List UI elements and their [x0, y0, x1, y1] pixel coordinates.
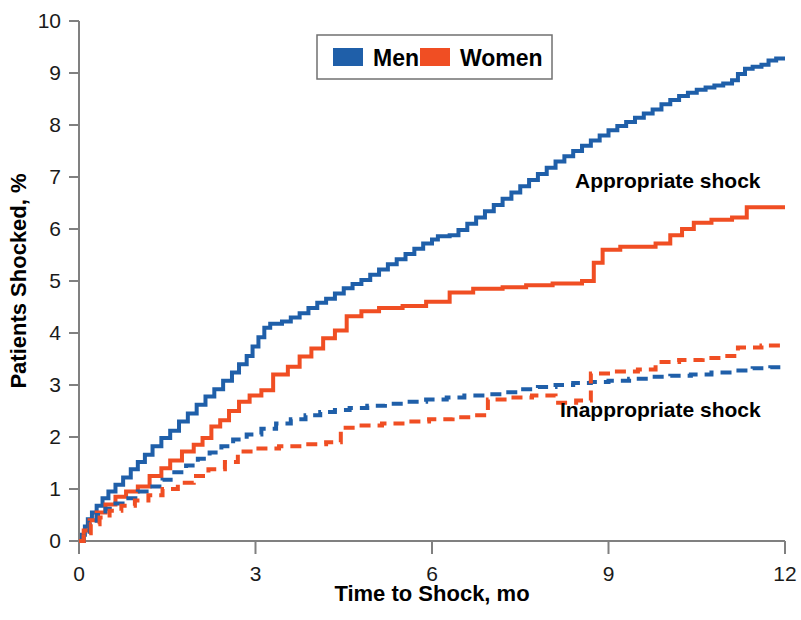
series-group: [79, 58, 785, 541]
y-tick-label: 4: [49, 321, 61, 344]
legend-label-men: Men: [373, 45, 419, 71]
y-tick-label: 0: [49, 529, 61, 552]
x-tick-label: 9: [603, 562, 615, 585]
y-tick-label: 7: [49, 165, 61, 188]
chart-container: 012345678910 036912 Time to Shock, mo Pa…: [0, 0, 801, 620]
y-tick-label: 5: [49, 269, 61, 292]
x-tick-label: 12: [773, 562, 796, 585]
y-tick-label: 3: [49, 373, 61, 396]
kaplan-meier-chart: 012345678910 036912 Time to Shock, mo Pa…: [0, 0, 801, 620]
x-tick-label: 0: [73, 562, 85, 585]
y-axis-ticks: 012345678910: [38, 9, 79, 552]
y-tick-label: 2: [49, 425, 61, 448]
y-tick-label: 8: [49, 113, 61, 136]
series-men-appropriate-shock: [79, 58, 785, 541]
y-tick-label: 1: [49, 477, 61, 500]
legend-label-women: Women: [460, 45, 543, 71]
y-tick-label: 10: [38, 9, 61, 32]
annotation-appropriate-shock: Appropriate shock: [575, 169, 761, 192]
annotation-inappropriate-shock: Inappropriate shock: [560, 398, 761, 421]
y-tick-label: 6: [49, 217, 61, 240]
x-axis-title: Time to Shock, mo: [334, 581, 529, 606]
x-axis-ticks: 036912: [73, 541, 797, 585]
chart-legend: Men Women: [317, 35, 552, 79]
y-axis-title: Patients Shocked, %: [6, 173, 31, 388]
x-tick-label: 3: [250, 562, 262, 585]
legend-swatch-women: [420, 48, 450, 66]
y-tick-label: 9: [49, 61, 61, 84]
legend-swatch-men: [333, 48, 363, 66]
series-men-inappropriate-shock: [79, 367, 785, 541]
